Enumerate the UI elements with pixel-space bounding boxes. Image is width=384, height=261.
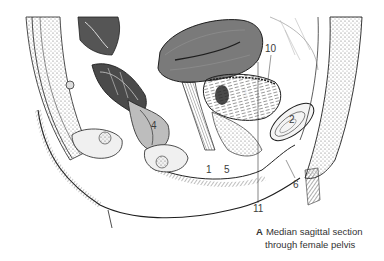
uterus (158, 20, 263, 83)
anatomical-illustration: 3 1 2 4 5 6 10 11 (0, 0, 384, 261)
label-5: 5 (224, 165, 230, 175)
caption-letter: A (256, 226, 263, 237)
label-10: 10 (265, 44, 276, 54)
perineal-body (72, 129, 188, 172)
abdominal-wall (270, 17, 362, 205)
leader-line-6 (286, 160, 295, 178)
leader-line-10 (268, 55, 271, 80)
label-11: 11 (253, 204, 263, 214)
caption-line-2: through female pelvis (256, 238, 363, 251)
label-4: 4 (151, 121, 157, 131)
figure-caption: AMedian sagittal section through female … (256, 225, 363, 251)
label-1: 1 (206, 165, 212, 175)
caption-line-1: Median sagittal section (266, 226, 363, 237)
label-2: 2 (289, 115, 295, 125)
rectum (78, 17, 146, 113)
label-6: 6 (293, 180, 299, 190)
anal-canal (128, 100, 169, 150)
pelvis-drawing (0, 0, 384, 261)
label-3: 3 (242, 89, 248, 99)
